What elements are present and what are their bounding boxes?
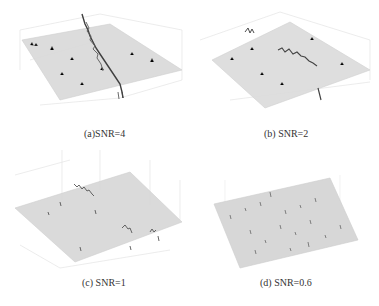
surface-plot-c: (c) SNR=1 <box>0 150 190 290</box>
surface-plot-b-graphic <box>190 0 379 130</box>
surface-plot-a-graphic <box>0 0 190 130</box>
panel-caption-b: (b) SNR=2 <box>264 128 308 139</box>
surface-plot-b: (b) SNR=2 <box>190 0 379 150</box>
panel-caption-a: (a)SNR=4 <box>84 128 125 139</box>
surface-plot-d: (d) SNR=0.6 <box>190 150 379 290</box>
surface-plot-a: (a)SNR=4 <box>0 0 190 150</box>
panel-caption-c: (c) SNR=1 <box>82 277 126 288</box>
panel-caption-d: (d) SNR=0.6 <box>260 277 312 288</box>
surface-plot-c-graphic <box>0 150 190 275</box>
surface-plot-d-graphic <box>190 150 379 275</box>
